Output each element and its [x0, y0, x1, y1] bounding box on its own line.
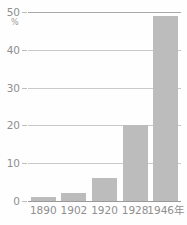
bar-slot: [31, 12, 56, 201]
bar-1928: [123, 125, 148, 201]
y-tick-mark-50: [22, 12, 27, 13]
y-tick-mark-10: [22, 163, 27, 164]
y-tick-mark-20: [22, 125, 27, 126]
bar-1920: [92, 178, 117, 201]
x-axis-label-1890: 1890: [30, 204, 57, 217]
bar-chart: 01020304050 % 18901902192019281946年: [0, 0, 187, 225]
y-axis-label-40: 40: [7, 45, 20, 56]
bar-slot: [92, 12, 117, 201]
y-tick-mark-0: [22, 201, 27, 202]
gridline-0: [28, 201, 181, 202]
y-axis-label-20: 20: [7, 120, 20, 131]
bar-1946: [153, 16, 178, 201]
y-axis-label-50: 50: [7, 7, 20, 18]
y-tick-mark-30: [22, 88, 27, 89]
x-axis-label-1920: 1920: [91, 204, 118, 217]
bar-1902: [61, 193, 86, 201]
y-axis-unit: %: [11, 19, 19, 27]
bar-slot: [123, 12, 148, 201]
bar-slot: [61, 12, 86, 201]
x-axis-label-1902: 1902: [61, 204, 88, 217]
bar-1890: [31, 197, 56, 201]
y-axis-label-0: 0: [13, 196, 20, 207]
y-axis-label-10: 10: [7, 158, 20, 169]
bar-series: [28, 12, 181, 201]
x-axis-labels: 18901902192019281946年: [28, 204, 181, 224]
x-axis-label-1928: 1928: [122, 204, 149, 217]
x-axis-label-1946: 1946年: [147, 204, 184, 217]
plot-area: 01020304050: [28, 12, 181, 201]
bar-slot: [153, 12, 178, 201]
y-tick-mark-40: [22, 50, 27, 51]
y-axis-label-30: 30: [7, 82, 20, 93]
